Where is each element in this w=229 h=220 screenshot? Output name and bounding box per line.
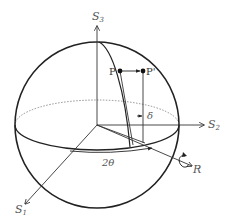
radius-to-p-prime <box>97 125 145 143</box>
s3-label: S3 <box>92 10 105 24</box>
point-p-prime <box>141 69 146 74</box>
s1-axis <box>25 125 97 204</box>
point-p <box>118 69 123 74</box>
p-prime-label: P' <box>146 66 155 77</box>
two-theta-label: 2θ <box>101 157 114 168</box>
poincare-sphere-diagram: S3 S2 S1 R P P' δ 2θ <box>0 0 229 220</box>
s1-label: S1 <box>15 203 27 217</box>
delta-label: δ <box>147 110 153 121</box>
p-label: P <box>109 66 116 77</box>
equator-front <box>15 125 179 150</box>
r-label: R <box>192 163 201 176</box>
s2-label: S2 <box>208 118 221 132</box>
